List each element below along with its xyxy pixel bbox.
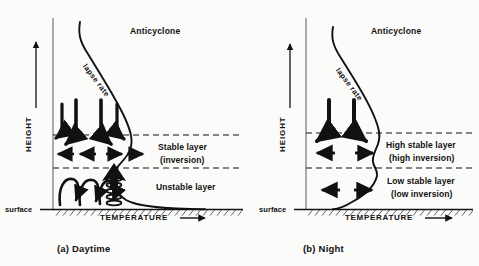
low-stable-layer-label-night: Low stable layer (387, 176, 455, 186)
height-axis-label-daytime: HEIGHT (24, 116, 33, 152)
caption-daytime: (a) Daytime (57, 243, 110, 254)
high-stable-layer-label-night: High stable layer (386, 140, 456, 150)
anticyclone-label-daytime: Anticyclone (130, 26, 180, 36)
atmosphere-stability-diagram (0, 0, 479, 266)
unstable-layer-label-daytime: Unstable layer (156, 182, 216, 192)
temperature-axis-label-night: TEMPERATURE (345, 213, 413, 222)
stable-layer-sublabel-daytime: (inversion) (160, 155, 205, 165)
surface-label-daytime: surface (5, 205, 32, 214)
temperature-axis-label-daytime: TEMPERATURE (100, 213, 168, 222)
anticyclone-label-night: Anticyclone (371, 26, 421, 36)
caption-night: (b) Night (303, 243, 344, 254)
low-stable-layer-sublabel-night: (low inversion) (391, 189, 452, 199)
high-stable-layer-sublabel-night: (high inversion) (389, 153, 454, 163)
height-axis-label-night: HEIGHT (278, 116, 287, 152)
surface-label-night: surface (259, 205, 286, 214)
stable-layer-label-daytime: Stable layer (158, 142, 207, 152)
